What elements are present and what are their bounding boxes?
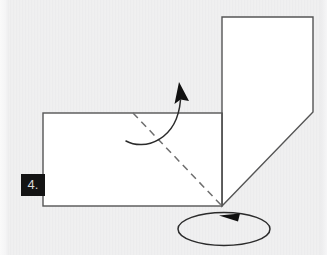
origami-figure: [0, 0, 327, 255]
step-number-badge: 4.: [21, 174, 45, 196]
upper-flap-shape: [222, 17, 313, 206]
rotate-indicator-ellipse: [178, 213, 270, 246]
diagram-canvas: 4.: [0, 0, 327, 255]
fold-direction-arrowhead: [175, 82, 190, 104]
base-rectangle-shape: [43, 113, 222, 206]
rotate-indicator-arrowhead: [219, 214, 240, 222]
